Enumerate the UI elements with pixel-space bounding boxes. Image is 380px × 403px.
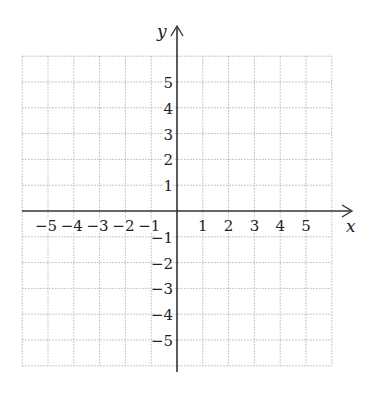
- y-tick-label: −4: [151, 306, 173, 324]
- x-axis-label: x: [346, 216, 356, 236]
- y-tick-label: −5: [151, 332, 173, 350]
- y-tick-label: −3: [151, 280, 173, 298]
- x-tick-label: −3: [87, 217, 109, 235]
- x-tick-label: −5: [35, 217, 57, 235]
- coordinate-plane: −5−4−3−2−11234554321−1−2−3−4−5 x y: [0, 0, 380, 403]
- y-axis-label: y: [156, 21, 167, 41]
- y-tick-label: 1: [163, 177, 173, 195]
- y-tick-label: 5: [163, 74, 173, 92]
- x-tick-label: 5: [301, 217, 311, 235]
- tick-labels: −5−4−3−2−11234554321−1−2−3−4−5: [35, 74, 311, 350]
- x-tick-label: 2: [224, 217, 234, 235]
- x-tick-label: −2: [112, 217, 134, 235]
- y-tick-label: −2: [151, 255, 173, 273]
- y-tick-label: 2: [163, 151, 173, 169]
- x-tick-label: 4: [275, 217, 285, 235]
- x-tick-label: −4: [61, 217, 83, 235]
- x-tick-label: 1: [198, 217, 208, 235]
- y-tick-label: −1: [151, 229, 173, 247]
- axes: [22, 26, 352, 372]
- y-tick-label: 4: [163, 100, 173, 118]
- x-tick-label: 3: [250, 217, 260, 235]
- y-tick-label: 3: [163, 126, 173, 144]
